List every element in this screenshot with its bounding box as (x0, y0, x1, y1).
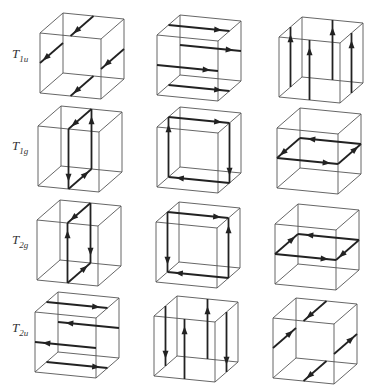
cube-edge (273, 358, 296, 378)
arrowhead-icon (163, 351, 169, 359)
cube-edge (277, 188, 338, 194)
cube-edge (157, 95, 218, 101)
arrowhead-icon (88, 248, 94, 256)
cube-edge (37, 200, 60, 220)
cube-edge (338, 174, 361, 194)
cube-edge (336, 270, 359, 290)
cube-edge (180, 75, 241, 81)
cube-edge (273, 298, 296, 318)
arrowhead-icon (349, 40, 355, 48)
cube-edge (277, 108, 300, 128)
cube-t1g-1 (38, 106, 122, 192)
cube-edge (63, 13, 124, 19)
cube-edge (101, 79, 124, 99)
cube-edge (156, 282, 217, 288)
arrowhead-icon (226, 225, 232, 233)
cube-mode-figure: T1uT1gT2gT2u (0, 0, 371, 386)
arrowhead-icon (165, 257, 171, 265)
cube-t2g-3 (275, 204, 359, 290)
cube-edge (334, 304, 357, 324)
cube-t2u-3 (273, 298, 357, 384)
cube-edge (98, 206, 121, 226)
cube-edge (334, 364, 357, 384)
cube-edge (275, 204, 298, 224)
cube-edge (180, 15, 241, 21)
arrowhead-icon (89, 116, 95, 124)
cube-edge (277, 168, 300, 188)
cube-grid (35, 13, 363, 384)
cube-edge (336, 210, 359, 230)
cube-t1g-3 (277, 108, 361, 194)
row-label-t1u: T1u (12, 46, 29, 64)
cube-edge (298, 204, 359, 210)
cube-edge (179, 202, 240, 208)
arrowhead-icon (330, 27, 336, 35)
cube-t2g-2 (156, 202, 240, 288)
cube-edge (40, 73, 63, 93)
cube-t1u-3 (279, 17, 363, 103)
cube-edge (300, 168, 361, 174)
row-label-t2u: T2u (12, 320, 29, 338)
cube-edge (101, 19, 124, 39)
cube-edge (338, 114, 361, 134)
cube-edge (157, 187, 218, 193)
cube-edge (38, 106, 61, 126)
arrowhead-icon (65, 230, 71, 238)
cube-edge (58, 292, 119, 298)
cube-t1u-2 (157, 15, 241, 101)
cube-edge (179, 262, 240, 268)
cube-edge (298, 264, 359, 270)
cube-edge (35, 312, 96, 318)
cube-t1u-1 (40, 13, 124, 99)
cube-edge (300, 108, 361, 114)
cube-edge (99, 172, 122, 192)
cube-edge (38, 166, 61, 186)
cube-t2g-1 (37, 200, 121, 286)
arrowhead-icon (307, 47, 313, 55)
cube-t2u-1 (35, 292, 119, 378)
row-label-t2g: T2g (12, 232, 29, 250)
cube-edge (99, 112, 122, 132)
cube-t2u-2 (154, 296, 238, 382)
cube-edge (156, 222, 217, 228)
cube-edge (275, 224, 336, 230)
row-label-t1g: T1g (12, 138, 29, 156)
row-labels: T1uT1gT2gT2u (12, 46, 29, 338)
arrowhead-icon (182, 326, 188, 334)
arrowhead-icon (66, 174, 72, 182)
cube-edge (37, 260, 60, 280)
cube-edge (35, 372, 96, 378)
cube-edge (157, 35, 218, 41)
cube-edge (58, 352, 119, 358)
arrowhead-icon (205, 306, 211, 314)
cube-edge (275, 264, 298, 284)
cube-edge (180, 107, 241, 113)
cube-edge (98, 266, 121, 286)
cube-edge (275, 284, 336, 290)
cube-t1g-2 (157, 107, 241, 193)
cube-edge (277, 128, 338, 134)
cube-edge (40, 13, 63, 33)
